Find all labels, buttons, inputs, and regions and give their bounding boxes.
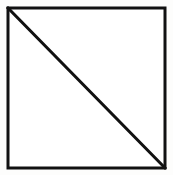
figure-canvas: Square divided by a diagonal A black out… <box>0 0 173 175</box>
square-with-diagonal-figure: Square divided by a diagonal A black out… <box>0 0 173 175</box>
